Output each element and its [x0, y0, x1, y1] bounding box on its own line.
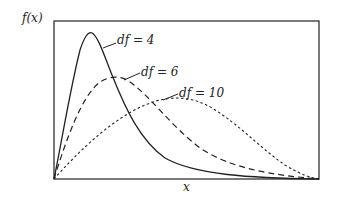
label-df4: df = 4: [117, 33, 154, 47]
leader-df6: [124, 73, 140, 80]
plot-frame: [54, 21, 319, 179]
chi-square-chart: [0, 0, 337, 202]
label-df10: df = 10: [179, 86, 224, 100]
x-axis-label: x: [183, 180, 190, 194]
leader-df4: [103, 43, 116, 48]
y-axis-label: f(x): [22, 11, 43, 25]
leader-df10: [163, 94, 178, 100]
curve-df4: [54, 33, 319, 179]
label-df6: df = 6: [141, 65, 178, 79]
